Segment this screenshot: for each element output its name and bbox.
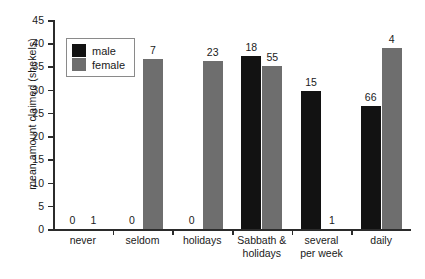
y-tick-label: 35: [32, 60, 44, 72]
y-tick-mark: [48, 90, 54, 92]
y-tick-mark: [48, 206, 54, 208]
y-tick-mark: [48, 136, 54, 138]
y-tick-label: 30: [32, 84, 44, 96]
bar-chart: mean amount claimed (shekels) 0510152025…: [0, 0, 425, 279]
bar-value-label: 1: [90, 214, 96, 226]
bar-value-label: 0: [69, 214, 75, 226]
bar-female-5: [382, 48, 402, 229]
x-category-label: never: [70, 234, 96, 247]
bar-male-4: [301, 91, 321, 229]
bar-value-label: 4: [389, 33, 395, 45]
x-category-label: holidays: [183, 234, 222, 247]
bar-value-label: 7: [150, 44, 156, 56]
y-tick-label: 10: [32, 177, 44, 189]
y-tick-mark: [48, 159, 54, 161]
x-tick-mark: [292, 229, 294, 235]
bar-value-label: 0: [129, 214, 135, 226]
x-category-label: daily: [370, 234, 392, 247]
y-tick-mark: [48, 43, 54, 45]
x-category-label: Sabbath & holidays: [237, 234, 286, 259]
legend-item-male: male: [72, 44, 125, 57]
bar-value-label: 55: [266, 51, 278, 63]
bar-female-3: [262, 66, 282, 229]
y-tick-mark: [48, 183, 54, 185]
legend-item-female: female: [72, 58, 125, 71]
y-tick-mark: [48, 229, 54, 231]
bar-female-2: [203, 61, 223, 229]
x-category-label: several per week: [300, 234, 343, 259]
y-tick-mark: [48, 113, 54, 115]
y-tick-label: 0: [38, 223, 44, 235]
x-category-label: seldom: [126, 234, 160, 247]
bar-value-label: 1: [329, 214, 335, 226]
y-axis-line: [53, 20, 55, 229]
bar-male-5: [361, 106, 381, 229]
legend-label-female: female: [92, 59, 125, 71]
bar-female-1: [143, 59, 163, 229]
y-tick-label: 5: [38, 200, 44, 212]
y-tick-label: 45: [32, 14, 44, 26]
bar-male-3: [241, 56, 261, 229]
x-tick-mark: [351, 229, 353, 235]
bar-value-label: 0: [189, 214, 195, 226]
legend-swatch-female-icon: [72, 58, 86, 71]
y-tick-label: 20: [32, 130, 44, 142]
x-tick-mark: [232, 229, 234, 235]
bar-value-label: 66: [365, 91, 377, 103]
legend-swatch-male-icon: [72, 44, 86, 57]
legend: male female: [66, 38, 135, 77]
bar-value-label: 15: [305, 76, 317, 88]
y-tick-label: 25: [32, 107, 44, 119]
y-tick-mark: [48, 20, 54, 22]
y-tick-mark: [48, 66, 54, 68]
x-tick-mark: [113, 229, 115, 235]
x-tick-mark: [172, 229, 174, 235]
legend-label-male: male: [92, 45, 116, 57]
y-tick-label: 40: [32, 37, 44, 49]
y-tick-label: 15: [32, 153, 44, 165]
bar-value-label: 23: [207, 46, 219, 58]
bar-value-label: 18: [245, 41, 257, 53]
